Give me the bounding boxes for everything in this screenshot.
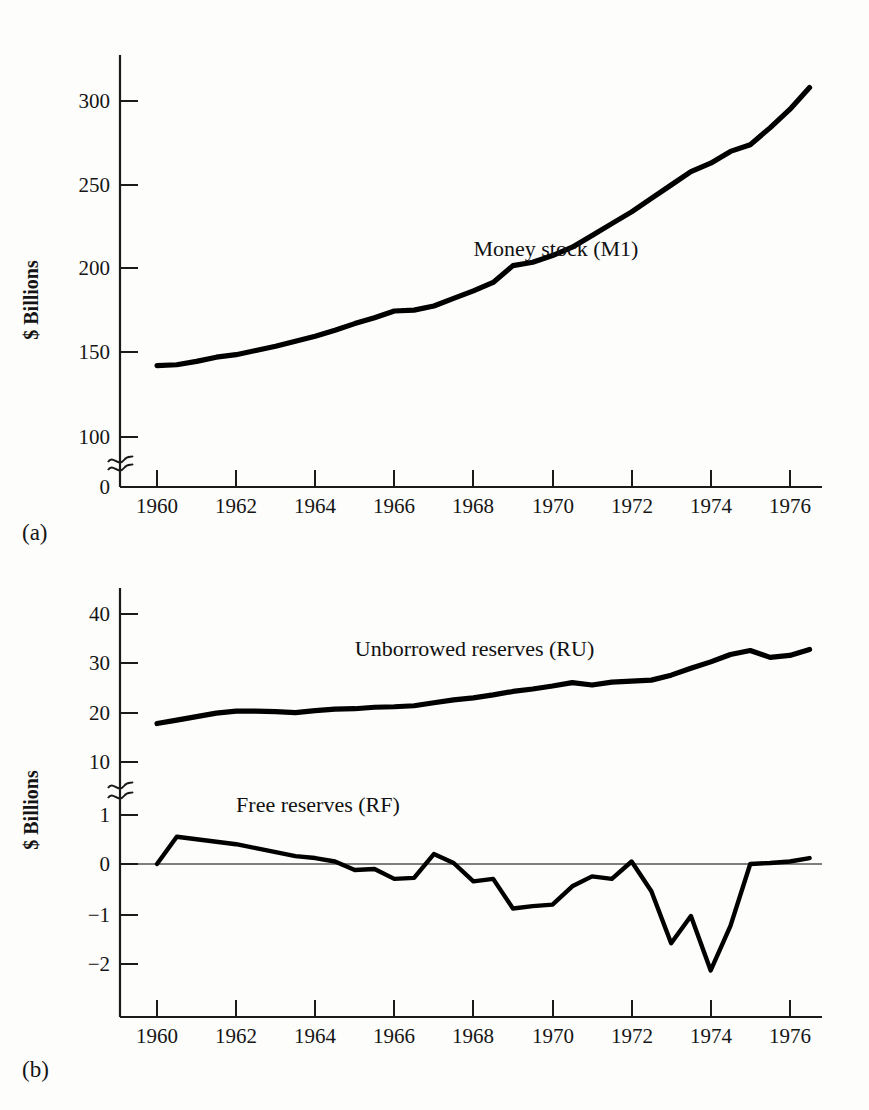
chart-b-xtick-1966: 1966 bbox=[373, 1024, 415, 1048]
chart-b-ytick-0: 0 bbox=[100, 852, 111, 876]
panel-a-caption: (a) bbox=[22, 520, 48, 545]
chart-b-xtick-1968: 1968 bbox=[452, 1024, 494, 1048]
chart-b-line-free-reserves bbox=[157, 837, 810, 971]
chart-b-xtick-1962: 1962 bbox=[215, 1024, 257, 1048]
chart-b-svg: 40 30 20 10 1 0 −1 −2 bbox=[0, 560, 869, 1110]
chart-a-xtick-1964: 1964 bbox=[294, 494, 337, 518]
chart-b-xtick-1964: 1964 bbox=[294, 1024, 337, 1048]
chart-a-xtick-1968: 1968 bbox=[452, 494, 494, 518]
chart-b-x-ticks bbox=[157, 1000, 790, 1017]
chart-a-ytick-100: 100 bbox=[79, 425, 111, 449]
chart-b-series-label-free-reserves: Free reserves (RF) bbox=[236, 792, 400, 817]
chart-a-ytick-250: 250 bbox=[79, 173, 111, 197]
chart-b-series-label-unborrowed-reserves: Unborrowed reserves (RU) bbox=[355, 636, 594, 661]
chart-a-y-axis-title: $ Billions bbox=[20, 260, 42, 340]
chart-a-svg: 300 250 200 150 100 0 1960 1962 1964 196… bbox=[0, 0, 869, 560]
chart-b-ytick-1: 1 bbox=[100, 803, 111, 827]
chart-b-ytick-neg1: −1 bbox=[88, 903, 110, 927]
chart-b-ytick-40: 40 bbox=[89, 602, 110, 626]
chart-b-y-ticks-lower bbox=[120, 815, 138, 964]
chart-b-xtick-1972: 1972 bbox=[611, 1024, 653, 1048]
chart-b-ytick-neg2: −2 bbox=[88, 952, 110, 976]
chart-a-ytick-200: 200 bbox=[79, 256, 111, 280]
panel-b-reserves: 40 30 20 10 1 0 −1 −2 bbox=[0, 560, 869, 1110]
chart-a-y-ticks bbox=[120, 101, 138, 487]
chart-a-x-ticks bbox=[157, 470, 790, 487]
chart-b-y-ticks-upper bbox=[120, 614, 138, 762]
chart-b-y-axis-title: $ Billions bbox=[20, 770, 42, 850]
chart-b-ytick-10: 10 bbox=[89, 750, 110, 774]
chart-a-ytick-0: 0 bbox=[100, 475, 111, 499]
chart-a-xtick-1972: 1972 bbox=[611, 494, 653, 518]
chart-b-xtick-1970: 1970 bbox=[532, 1024, 574, 1048]
chart-b-xtick-1974: 1974 bbox=[690, 1024, 733, 1048]
chart-b-xtick-1976: 1976 bbox=[769, 1024, 811, 1048]
chart-a-xtick-1970: 1970 bbox=[532, 494, 574, 518]
chart-a-xtick-1976: 1976 bbox=[769, 494, 811, 518]
chart-a-line-money-stock bbox=[157, 88, 810, 366]
chart-a-xtick-1966: 1966 bbox=[373, 494, 415, 518]
chart-b-ytick-20: 20 bbox=[89, 701, 110, 725]
chart-a-series-label-money-stock: Money stock (M1) bbox=[473, 236, 638, 261]
chart-a-ytick-300: 300 bbox=[79, 89, 111, 113]
chart-a-xtick-1974: 1974 bbox=[690, 494, 733, 518]
chart-a-xtick-1962: 1962 bbox=[215, 494, 257, 518]
panel-b-caption: (b) bbox=[22, 1057, 49, 1082]
chart-a-xtick-1960: 1960 bbox=[136, 494, 178, 518]
chart-b-xtick-1960: 1960 bbox=[136, 1024, 178, 1048]
chart-a-ytick-150: 150 bbox=[79, 340, 111, 364]
panel-a-money-stock: 300 250 200 150 100 0 1960 1962 1964 196… bbox=[0, 0, 869, 560]
chart-b-ytick-30: 30 bbox=[89, 651, 110, 675]
